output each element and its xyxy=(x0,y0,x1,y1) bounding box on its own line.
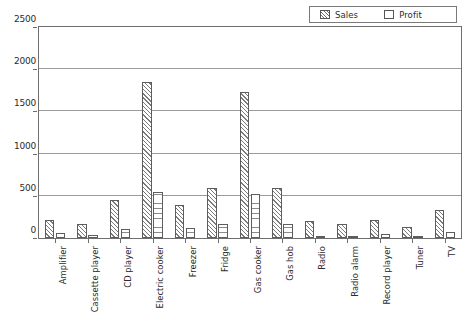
x-axis-tick-mark xyxy=(315,239,316,243)
x-axis-category-label: CD player xyxy=(124,246,133,288)
x-axis-category-label: TV xyxy=(448,246,457,257)
bar-profit-amplifier xyxy=(56,233,66,238)
bar-sales-electric-cooker xyxy=(142,82,152,238)
y-axis-tick-mark xyxy=(33,238,37,239)
x-axis-tick-mark xyxy=(185,239,186,243)
diagonal-hatch-swatch-icon xyxy=(320,10,330,19)
chart-legend: Sales Profit xyxy=(309,6,457,23)
bar-group xyxy=(175,27,196,238)
bar-group xyxy=(402,27,423,238)
x-axis-tick-mark xyxy=(55,239,56,243)
x-axis-category-label: Tuner xyxy=(416,246,425,269)
legend-label-sales: Sales xyxy=(335,10,358,20)
bar-sales-fridge xyxy=(207,188,217,238)
bar-group xyxy=(142,27,163,238)
x-axis-category-label: Amplifier xyxy=(59,246,68,284)
y-axis-tick-label: 1000 xyxy=(3,141,36,150)
bar-sales-gas-cooker xyxy=(240,92,250,238)
bar-profit-electric-cooker xyxy=(153,192,163,238)
x-axis-category-label: Gas hob xyxy=(286,246,295,281)
x-axis-tick-mark xyxy=(445,239,446,243)
empty-swatch-icon xyxy=(384,10,394,19)
legend-label-profit: Profit xyxy=(399,10,422,20)
bar-group xyxy=(110,27,131,238)
bars-layer xyxy=(39,27,461,238)
bar-sales-record-player xyxy=(370,220,380,238)
bar-group xyxy=(45,27,66,238)
bar-profit-gas-hob xyxy=(283,224,293,238)
bar-group xyxy=(77,27,98,238)
x-axis-category-label: Electric cooker xyxy=(156,246,165,308)
y-axis-tick-label: 0 xyxy=(3,226,36,235)
x-axis-tick-mark xyxy=(120,239,121,243)
x-axis-tick-mark xyxy=(282,239,283,243)
x-axis-tick-mark xyxy=(88,239,89,243)
x-axis-category-label: Record player xyxy=(383,246,392,305)
bar-group xyxy=(435,27,456,238)
y-axis: 05001000150020002500 xyxy=(0,26,36,239)
bar-sales-cassette-player xyxy=(77,224,87,238)
bar-profit-fridge xyxy=(218,224,228,238)
x-axis-tick-mark xyxy=(380,239,381,243)
legend-item-sales: Sales xyxy=(320,10,358,20)
bar-profit-cd-player xyxy=(121,229,131,238)
y-axis-tick-label: 2000 xyxy=(3,57,36,66)
bar-sales-radio-alarm xyxy=(337,224,347,238)
bar-sales-freezer xyxy=(175,205,185,238)
legend-item-profit: Profit xyxy=(384,10,422,20)
x-axis-category-label: Gas cooker xyxy=(254,246,263,293)
y-axis-tick-label: 500 xyxy=(3,183,36,192)
bar-chart: Sales Profit 05001000150020002500 Amplif… xyxy=(0,0,471,320)
x-axis-tick-mark xyxy=(153,239,154,243)
x-axis-tick-mark xyxy=(347,239,348,243)
bar-group xyxy=(272,27,293,238)
bar-group xyxy=(207,27,228,238)
bar-group xyxy=(370,27,391,238)
bar-group xyxy=(305,27,326,238)
x-axis-category-label: Fridge xyxy=(221,246,230,272)
bar-sales-radio xyxy=(305,221,315,238)
x-axis-tick-mark xyxy=(218,239,219,243)
x-axis-category-label: Cassette player xyxy=(91,246,100,312)
bar-sales-tv xyxy=(435,210,445,238)
y-axis-tick-mark xyxy=(33,69,37,70)
bar-profit-record-player xyxy=(381,234,391,238)
y-axis-tick-mark xyxy=(33,154,37,155)
bar-profit-tv xyxy=(446,232,456,238)
x-axis-category-label: Radio alarm xyxy=(351,246,360,297)
bar-profit-tuner xyxy=(413,236,423,238)
bar-sales-cd-player xyxy=(110,200,120,238)
bar-profit-cassette-player xyxy=(88,235,98,238)
y-axis-tick-label: 1500 xyxy=(3,99,36,108)
bar-sales-tuner xyxy=(402,227,412,238)
y-axis-tick-mark xyxy=(33,27,37,28)
bar-group xyxy=(240,27,261,238)
bar-sales-amplifier xyxy=(45,220,55,238)
y-axis-tick-mark xyxy=(33,196,37,197)
bar-profit-gas-cooker xyxy=(251,194,261,238)
x-axis-tick-mark xyxy=(412,239,413,243)
bar-profit-radio xyxy=(316,236,326,238)
bar-group xyxy=(337,27,358,238)
y-axis-tick-mark xyxy=(33,111,37,112)
bar-profit-radio-alarm xyxy=(348,236,358,238)
y-axis-tick-label: 2500 xyxy=(3,15,36,24)
bar-sales-gas-hob xyxy=(272,188,282,238)
x-axis-category-label: Freezer xyxy=(189,246,198,277)
x-axis-tick-mark xyxy=(250,239,251,243)
bar-profit-freezer xyxy=(186,228,196,238)
x-axis-category-label: Radio xyxy=(318,246,327,270)
